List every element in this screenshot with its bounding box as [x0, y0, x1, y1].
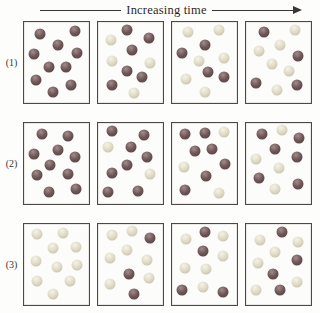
molecule-sphere-red — [71, 184, 82, 195]
molecule-sphere-red — [52, 39, 63, 50]
molecule-sphere-yellow — [104, 278, 115, 289]
molecule-sphere-red — [176, 285, 187, 296]
molecule-sphere-red — [293, 51, 304, 62]
molecule-sphere-red — [128, 289, 139, 300]
molecule-sphere-red — [293, 178, 304, 189]
molecule-sphere-red — [69, 25, 80, 36]
molecule-sphere-yellow — [219, 126, 230, 137]
molecule-sphere-red — [143, 33, 154, 44]
molecule-sphere-red — [28, 49, 39, 60]
snapshot-box — [171, 223, 238, 306]
molecule-sphere-red — [199, 39, 210, 50]
row-boxes — [23, 223, 312, 306]
molecule-sphere-red — [30, 75, 41, 86]
molecule-sphere-yellow — [107, 229, 118, 240]
molecule-sphere-red — [35, 29, 46, 40]
molecule-sphere-red — [274, 284, 285, 295]
molecule-sphere-red — [198, 245, 209, 256]
molecule-sphere-yellow — [51, 261, 62, 272]
molecule-sphere-red — [45, 160, 56, 171]
molecule-sphere-yellow — [250, 285, 261, 296]
molecule-sphere-red — [125, 142, 136, 153]
row-boxes — [23, 21, 312, 104]
molecule-sphere-red — [270, 143, 281, 154]
molecule-sphere-yellow — [128, 88, 139, 99]
arrow-line-left — [40, 10, 121, 11]
snapshot-box — [97, 223, 164, 306]
molecule-sphere-yellow — [252, 257, 263, 268]
molecule-sphere-yellow — [145, 169, 156, 180]
molecule-sphere-yellow — [143, 273, 154, 284]
molecule-sphere-yellow — [181, 234, 192, 245]
reaction-row-1: (1) — [0, 21, 320, 104]
molecule-sphere-red — [72, 47, 83, 58]
molecule-sphere-yellow — [64, 275, 75, 286]
molecule-sphere-yellow — [194, 55, 205, 66]
molecule-sphere-yellow — [267, 59, 278, 70]
molecule-sphere-red — [199, 127, 210, 138]
snapshot-box — [245, 122, 312, 205]
molecule-sphere-yellow — [141, 254, 152, 265]
molecule-sphere-red — [122, 160, 133, 171]
molecule-sphere-yellow — [270, 183, 281, 194]
snapshot-rows: (1) (2) (3) — [0, 21, 320, 313]
molecule-sphere-red — [200, 170, 211, 181]
molecule-sphere-red — [141, 152, 152, 163]
molecule-sphere-red — [137, 72, 148, 83]
molecule-sphere-red — [257, 128, 268, 139]
molecule-sphere-yellow — [255, 235, 266, 246]
molecule-sphere-red — [180, 129, 191, 140]
molecule-sphere-yellow — [71, 241, 82, 252]
molecule-sphere-red — [220, 158, 231, 169]
molecule-sphere-red — [291, 152, 302, 163]
molecule-sphere-yellow — [272, 85, 283, 96]
molecule-sphere-yellow — [32, 275, 43, 286]
molecule-sphere-red — [294, 132, 305, 143]
molecule-sphere-red — [122, 25, 133, 36]
molecule-sphere-yellow — [199, 86, 210, 97]
molecule-sphere-yellow — [178, 161, 189, 172]
molecule-sphere-red — [219, 72, 230, 83]
molecule-sphere-red — [217, 287, 228, 298]
molecule-sphere-yellow — [181, 73, 192, 84]
row-label: (3) — [0, 259, 23, 270]
row-boxes — [23, 122, 312, 205]
snapshot-box — [97, 21, 164, 104]
molecule-sphere-yellow — [213, 25, 224, 36]
molecule-sphere-red — [107, 168, 118, 179]
molecule-sphere-yellow — [107, 55, 118, 66]
arrowhead-right-icon — [293, 6, 302, 14]
molecule-sphere-yellow — [293, 236, 304, 247]
row-label: (1) — [0, 57, 23, 68]
molecule-sphere-red — [145, 232, 156, 243]
molecule-sphere-yellow — [106, 34, 117, 45]
molecule-sphere-yellow — [217, 251, 228, 262]
molecule-sphere-yellow — [48, 243, 59, 254]
molecule-sphere-yellow — [254, 46, 265, 57]
molecule-sphere-yellow — [270, 247, 281, 258]
molecule-sphere-red — [65, 80, 76, 91]
molecule-sphere-red — [43, 61, 54, 72]
molecule-sphere-yellow — [126, 226, 137, 237]
molecule-sphere-red — [63, 130, 74, 141]
molecule-sphere-red — [138, 130, 149, 141]
molecule-sphere-yellow — [72, 259, 83, 270]
molecule-sphere-yellow — [104, 253, 115, 264]
molecule-sphere-red — [189, 145, 200, 156]
molecule-sphere-yellow — [183, 26, 194, 37]
molecule-sphere-red — [207, 143, 218, 154]
molecule-sphere-red — [28, 148, 39, 159]
molecule-sphere-yellow — [122, 244, 133, 255]
molecule-sphere-red — [32, 169, 43, 180]
molecule-sphere-red — [199, 227, 210, 238]
arrow-line-right — [212, 10, 293, 11]
snapshot-box — [171, 21, 238, 104]
snapshot-box — [23, 223, 90, 306]
molecule-sphere-red — [122, 65, 133, 76]
molecule-sphere-yellow — [219, 53, 230, 64]
molecule-sphere-red — [291, 80, 302, 91]
snapshot-box — [97, 122, 164, 205]
snapshot-box — [171, 122, 238, 205]
molecule-sphere-red — [126, 45, 137, 56]
molecule-sphere-red — [276, 227, 287, 238]
